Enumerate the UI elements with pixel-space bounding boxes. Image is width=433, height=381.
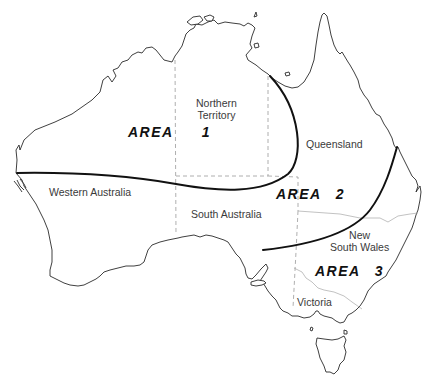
label-northern-territory-line2: Territory: [196, 109, 237, 121]
label-new-south-wales: New South Wales: [330, 229, 389, 253]
bathurst-island: [204, 15, 214, 21]
label-western-australia: Western Australia: [49, 186, 131, 198]
label-new-south-wales-line2: South Wales: [330, 241, 389, 253]
label-northern-territory: Northern Territory: [196, 97, 237, 121]
label-area-1: AREA1: [128, 124, 211, 140]
label-victoria: Victoria: [297, 296, 332, 308]
gove-islet: [254, 12, 257, 17]
label-queensland: Queensland: [306, 138, 363, 150]
wellesley-islet: [285, 72, 290, 76]
label-area-2-number: 2: [336, 186, 345, 202]
label-northern-territory-line1: Northern: [196, 97, 237, 109]
tasmania: [316, 336, 346, 374]
kangaroo-island: [251, 280, 266, 286]
label-area-2-word: AREA: [276, 186, 322, 202]
tasmania-islet: [344, 330, 347, 334]
label-area-3-word: AREA: [315, 263, 361, 279]
label-south-australia: South Australia: [191, 208, 262, 220]
label-area-3: AREA3: [315, 263, 384, 279]
label-area-1-number: 1: [202, 124, 211, 140]
label-area-2: AREA2: [276, 186, 345, 202]
label-new-south-wales-line1: New: [330, 229, 389, 241]
melville-island: [187, 16, 203, 25]
label-area-3-number: 3: [375, 263, 384, 279]
label-area-1-word: AREA: [128, 124, 174, 140]
king-island: [310, 327, 313, 331]
groote-eylandt: [254, 43, 259, 48]
